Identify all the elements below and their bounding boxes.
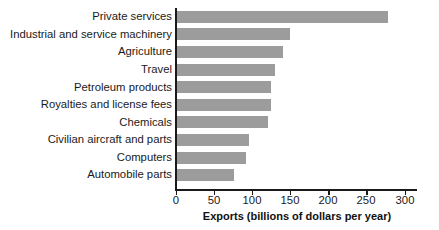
bar-track <box>176 169 234 181</box>
bar-civilian-aircraft-and-parts <box>176 134 249 146</box>
bar-track <box>176 116 268 128</box>
category-label: Petroleum products <box>0 82 172 93</box>
category-label: Agriculture <box>0 46 172 57</box>
bar-petroleum-products <box>176 81 271 93</box>
bar-row: Chemicals <box>0 114 439 132</box>
category-label: Travel <box>0 64 172 75</box>
plot-area: Private services Industrial and service … <box>0 0 439 230</box>
category-label: Industrial and service machinery <box>0 29 172 40</box>
x-axis-title: Exports (billions of dollars per year) <box>176 210 418 222</box>
bar-row: Royalties and license fees <box>0 96 439 114</box>
bar-row: Civilian aircraft and parts <box>0 131 439 149</box>
x-axis-line <box>175 189 417 191</box>
category-label: Civilian aircraft and parts <box>0 134 172 145</box>
bar-royalties-and-license-fees <box>176 99 271 111</box>
category-label: Royalties and license fees <box>0 99 172 110</box>
bar-computers <box>176 152 246 164</box>
bar-track <box>176 64 275 76</box>
category-label: Chemicals <box>0 117 172 128</box>
exports-bar-chart: Private services Industrial and service … <box>0 0 439 230</box>
x-tick-label-100: 100 <box>232 195 272 206</box>
bar-track <box>176 11 388 23</box>
x-tick-label-300: 300 <box>385 195 425 206</box>
bar-rows: Private services Industrial and service … <box>0 8 439 184</box>
x-tick-label-200: 200 <box>308 195 348 206</box>
bar-travel <box>176 64 275 76</box>
bar-row: Computers <box>0 149 439 167</box>
category-label: Computers <box>0 152 172 163</box>
category-label: Automobile parts <box>0 169 172 180</box>
bar-row: Petroleum products <box>0 78 439 96</box>
bar-track <box>176 46 283 58</box>
bar-row: Private services <box>0 8 439 26</box>
y-axis-line <box>175 8 177 190</box>
bar-chemicals <box>176 116 268 128</box>
bar-track <box>176 134 249 146</box>
bar-track <box>176 152 246 164</box>
bar-row: Automobile parts <box>0 166 439 184</box>
bar-agriculture <box>176 46 283 58</box>
bar-track <box>176 99 271 111</box>
bar-industrial-and-service-machinery <box>176 28 290 40</box>
bar-row: Industrial and service machinery <box>0 26 439 44</box>
category-label: Private services <box>0 11 172 22</box>
bar-row: Travel <box>0 61 439 79</box>
x-tick-label-150: 150 <box>270 195 310 206</box>
bar-private-services <box>176 11 388 23</box>
x-tick-label-0: 0 <box>156 195 196 206</box>
bar-row: Agriculture <box>0 43 439 61</box>
bar-track <box>176 28 290 40</box>
bar-automobile-parts <box>176 169 234 181</box>
x-tick-label-250: 250 <box>346 195 386 206</box>
x-tick-label-50: 50 <box>194 195 234 206</box>
bar-track <box>176 81 271 93</box>
